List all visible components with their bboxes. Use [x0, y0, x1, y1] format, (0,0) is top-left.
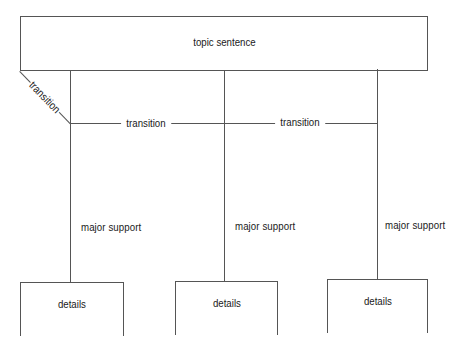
topic-sentence-box: topic sentence — [20, 16, 428, 71]
major-support-label-1: major support — [81, 221, 141, 233]
major-support-label-2: major support — [235, 220, 295, 232]
transition-label-diagonal: transition — [26, 78, 63, 116]
transition-label-2: transition — [275, 116, 325, 128]
details-box-3: details — [327, 279, 428, 333]
details-box-1: details — [20, 282, 124, 336]
topic-sentence-label: topic sentence — [193, 36, 255, 48]
support-3-connector — [377, 69, 378, 279]
major-support-label-3: major support — [385, 219, 445, 231]
support-1-connector — [70, 70, 71, 282]
horizontal-transition-line — [70, 123, 378, 124]
support-2-connector — [224, 70, 225, 281]
details-label-3: details — [364, 295, 392, 307]
paragraph-structure-diagram: topic sentence transition transition tra… — [0, 0, 468, 352]
transition-label-1: transition — [121, 117, 171, 129]
details-box-2: details — [175, 281, 278, 335]
details-label-2: details — [213, 297, 241, 309]
details-label-1: details — [58, 298, 86, 310]
